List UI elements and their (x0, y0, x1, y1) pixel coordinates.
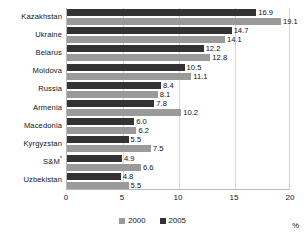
category-label: Macedonia (0, 122, 62, 130)
category-label: Moldova (0, 67, 62, 75)
bar-value-label: 14.1 (227, 36, 242, 43)
category-label: Belarus (0, 49, 62, 57)
category-label: S&M* (0, 158, 62, 166)
category-label: Armenia (0, 104, 62, 112)
bar-2000 (67, 109, 181, 116)
bar-group: 4.96.6 (67, 155, 289, 171)
bar-2000 (67, 18, 281, 25)
bar-2005 (67, 100, 154, 107)
bar-2000 (67, 145, 151, 152)
bar-chart: KazakhstanUkraineBelarusMoldovaRussiaArm… (0, 0, 305, 238)
bar-2000 (67, 164, 141, 171)
bar-group: 10.511.1 (67, 64, 289, 80)
bar-value-label: 8.4 (163, 82, 174, 89)
bar-2000 (67, 127, 136, 134)
bar-2005 (67, 9, 256, 16)
bar-2000 (67, 182, 129, 189)
bar-2005 (67, 136, 129, 143)
bar-value-label: 6.0 (136, 118, 147, 125)
bar-group: 7.810.2 (67, 100, 289, 116)
category-label: Russia (0, 85, 62, 93)
bar-group: 4.85.5 (67, 173, 289, 189)
bar-value-label: 14.7 (234, 27, 249, 34)
legend-item-2005[interactable]: 2005 (160, 217, 186, 225)
bar-2005 (67, 64, 185, 71)
bar-value-label: 6.6 (143, 164, 154, 171)
bar-value-label: 7.5 (153, 145, 164, 152)
footnote-marker: * (60, 156, 62, 162)
category-label: Uzbekistan (0, 176, 62, 184)
bar-value-label: 8.1 (160, 91, 171, 98)
bar-group: 8.48.1 (67, 82, 289, 98)
bar-2005 (67, 118, 134, 125)
bar-value-label: 11.1 (193, 73, 207, 80)
bar-group: 12.212.8 (67, 45, 289, 61)
bar-2000 (67, 54, 210, 61)
bar-2000 (67, 73, 191, 80)
category-label: Ukraine (0, 31, 62, 39)
x-tick-label: 0 (64, 193, 68, 202)
bar-2005 (67, 27, 232, 34)
bar-value-label: 12.8 (212, 54, 227, 61)
bar-2005 (67, 155, 122, 162)
bar-group: 5.57.5 (67, 136, 289, 152)
x-axis: 05101520 (66, 191, 290, 205)
x-tick-label: 5 (120, 193, 124, 202)
bar-value-label: 16.9 (258, 9, 273, 16)
bar-group: 14.714.1 (67, 27, 289, 43)
category-axis: KazakhstanUkraineBelarusMoldovaRussiaArm… (0, 8, 62, 190)
bar-group: 6.06.2 (67, 118, 289, 134)
bar-value-label: 4.9 (124, 155, 135, 162)
legend-swatch-icon (119, 218, 125, 224)
category-label: Kyrgyzstan (0, 140, 62, 148)
bar-value-label: 10.2 (183, 109, 198, 116)
bar-group: 16.919.1 (67, 9, 289, 25)
bar-2005 (67, 173, 121, 180)
bar-2005 (67, 82, 161, 89)
chart-legend: 20002005 (0, 214, 305, 228)
legend-label: 2000 (128, 217, 145, 225)
x-tick-label: 20 (286, 193, 295, 202)
bar-value-label: 5.5 (131, 136, 142, 143)
x-tick-label: 15 (230, 193, 239, 202)
legend-item-2000[interactable]: 2000 (119, 217, 145, 225)
category-label: Kazakhstan (0, 13, 62, 21)
bar-value-label: 12.2 (206, 45, 221, 52)
plot-area: 16.919.114.714.112.212.810.511.18.48.17.… (66, 8, 290, 190)
legend-label: 2005 (169, 217, 186, 225)
bar-value-label: 6.2 (138, 127, 149, 134)
bar-value-label: 7.8 (156, 100, 167, 107)
bar-2000 (67, 91, 158, 98)
axis-unit-label: % (292, 221, 299, 230)
x-tick-label: 10 (174, 193, 183, 202)
bar-value-label: 4.8 (123, 173, 134, 180)
legend-swatch-icon (160, 218, 166, 224)
bar-value-label: 19.1 (283, 18, 298, 25)
bar-value-label: 10.5 (187, 64, 202, 71)
bar-2005 (67, 45, 204, 52)
bar-value-label: 5.5 (131, 182, 142, 189)
bar-2000 (67, 36, 225, 43)
